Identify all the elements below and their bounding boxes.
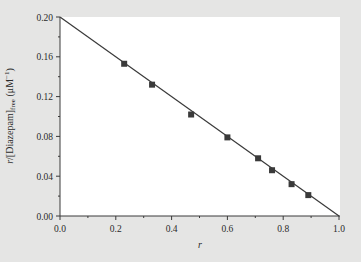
data-point-marker bbox=[269, 167, 275, 173]
x-tick-label: 0.2 bbox=[110, 224, 122, 234]
y-axis-label: r/[Diazepam]free (μM−1) bbox=[3, 68, 17, 164]
y-tick-label: 0.08 bbox=[36, 132, 53, 142]
y-tick-label: 0.16 bbox=[36, 52, 53, 62]
y-tick-label: 0.00 bbox=[36, 212, 53, 222]
x-tick-label: 0.6 bbox=[221, 224, 233, 234]
data-point-marker bbox=[121, 61, 127, 67]
data-point-marker bbox=[149, 82, 155, 88]
y-tick-label: 0.12 bbox=[36, 92, 53, 102]
scatter-chart: 0.000.040.080.120.160.200.00.20.40.60.81… bbox=[0, 0, 361, 262]
data-point-marker bbox=[289, 181, 295, 187]
x-axis-label: r bbox=[198, 239, 202, 250]
x-tick-label: 1.0 bbox=[333, 224, 345, 234]
data-point-marker bbox=[188, 112, 194, 118]
y-tick-label: 0.20 bbox=[36, 13, 53, 23]
data-point-marker bbox=[305, 192, 311, 198]
x-tick-label: 0.4 bbox=[166, 224, 178, 234]
x-tick-label: 0.8 bbox=[277, 224, 289, 234]
x-tick-label: 0.0 bbox=[54, 224, 66, 234]
y-tick-label: 0.04 bbox=[36, 172, 53, 182]
data-point-marker bbox=[224, 134, 230, 140]
data-point-marker bbox=[255, 155, 261, 161]
